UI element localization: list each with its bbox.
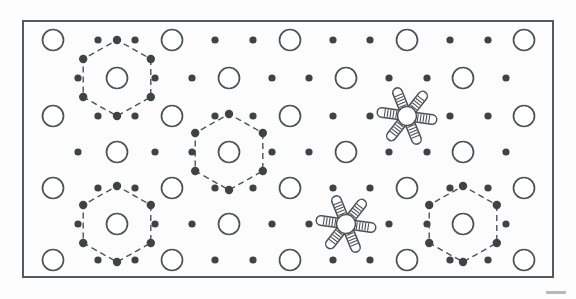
adatom-filled-dot: [268, 74, 275, 81]
substrate-atom-open-circle: [280, 178, 301, 199]
substrate-atom-open-circle: [336, 68, 357, 89]
rotor-lower-mid-arm-3: [316, 215, 339, 227]
adatom-filled-dot: [131, 36, 138, 43]
substrate-atom-open-circle: [162, 250, 183, 271]
adatom-filled-dot: [74, 220, 81, 227]
adatom-filled-dot: [385, 148, 392, 155]
adatom-filled-dot: [211, 256, 218, 263]
adatom-filled-dot: [305, 74, 312, 81]
substrate-atom-open-circle: [514, 178, 535, 199]
adatom-filled-dot: [188, 220, 195, 227]
substrate-atom-open-circle: [453, 142, 474, 163]
adatom-filled-dot: [74, 74, 81, 81]
adatom-filled-dot: [329, 112, 336, 119]
adatom-filled-dot: [305, 148, 312, 155]
lattice-atom-layer: [43, 30, 535, 271]
hexagon-bottom-left-vertex-1: [147, 239, 155, 247]
adatom-filled-dot: [151, 148, 158, 155]
hexagon-top-left-vertex-2: [113, 112, 121, 120]
substrate-atom-open-circle: [219, 214, 240, 235]
substrate-atom-open-circle: [219, 68, 240, 89]
adatom-filled-dot: [423, 148, 430, 155]
adatom-filled-dot: [249, 36, 256, 43]
adatom-filled-dot: [249, 112, 256, 119]
rotor-upper-right-arm-3: [377, 107, 400, 119]
hexagon-bottom-left-vertex-4: [79, 201, 87, 209]
hexagon-center-vertex-5: [225, 110, 233, 118]
adatom-filled-dot: [94, 112, 101, 119]
adatom-filled-dot: [385, 74, 392, 81]
hexagon-top-left-vertex-1: [147, 93, 155, 101]
hexagon-bottom-left-vertex-2: [113, 258, 121, 266]
adatom-filled-dot: [329, 36, 336, 43]
adatom-filled-dot: [484, 256, 491, 263]
substrate-atom-open-circle: [43, 106, 64, 127]
lattice-canvas: [0, 0, 576, 299]
hexagon-top-left-vertex-5: [113, 36, 121, 44]
hexagon-bottom-right-vertex-0: [493, 201, 501, 209]
substrate-atom-open-circle: [514, 250, 535, 271]
adatom-filled-dot: [366, 184, 373, 191]
adatom-filled-dot: [423, 74, 430, 81]
adatom-filled-dot: [151, 220, 158, 227]
adatom-filled-dot: [94, 256, 101, 263]
hexagon-bottom-left-vertex-3: [79, 239, 87, 247]
hexagon-bottom-left-vertex-0: [147, 201, 155, 209]
substrate-atom-open-circle: [280, 250, 301, 271]
adatom-filled-dot: [268, 220, 275, 227]
adatom-filled-dot: [249, 256, 256, 263]
hexagon-bottom-left-vertex-5: [113, 182, 121, 190]
rotor-upper-right: [373, 84, 440, 149]
substrate-atom-open-circle: [397, 178, 418, 199]
substrate-atom-open-circle: [280, 30, 301, 51]
substrate-atom-open-circle: [514, 106, 535, 127]
adatom-filled-dot: [502, 220, 509, 227]
hexagon-top-left-vertex-4: [79, 55, 87, 63]
lattice-row-1: [74, 68, 509, 89]
hexagon-center-vertex-0: [259, 129, 267, 137]
substrate-atom-open-circle: [514, 30, 535, 51]
adatom-filled-dot: [268, 148, 275, 155]
adatom-filled-dot: [366, 256, 373, 263]
adatom-filled-dot: [329, 256, 336, 263]
substrate-atom-open-circle: [219, 142, 240, 163]
hexagon-bottom-right-vertex-1: [493, 239, 501, 247]
substrate-atom-open-circle: [43, 30, 64, 51]
adatom-filled-dot: [131, 256, 138, 263]
rotor-lower-mid-arm-0: [353, 220, 376, 232]
lattice-row-5: [74, 214, 509, 235]
hexagon-center-vertex-1: [259, 167, 267, 175]
adatom-filled-dot: [211, 184, 218, 191]
hexagon-bottom-right-vertex-5: [459, 182, 467, 190]
substrate-atom-open-circle: [162, 106, 183, 127]
adatom-filled-dot: [446, 184, 453, 191]
adatom-filled-dot: [423, 220, 430, 227]
adatom-filled-dot: [446, 256, 453, 263]
adatom-filled-dot: [329, 184, 336, 191]
substrate-atom-open-circle: [453, 214, 474, 235]
adatom-filled-dot: [131, 112, 138, 119]
adatom-filled-dot: [188, 74, 195, 81]
hexagon-bottom-right-vertex-2: [459, 258, 467, 266]
adatom-filled-dot: [305, 220, 312, 227]
adatom-filled-dot: [446, 112, 453, 119]
adatom-filled-dot: [366, 36, 373, 43]
rotor-upper-right-arm-0: [414, 112, 437, 124]
substrate-atom-open-circle: [107, 142, 128, 163]
substrate-atom-open-circle: [107, 214, 128, 235]
substrate-atom-open-circle: [43, 250, 64, 271]
hexagon-bottom-right-vertex-4: [425, 201, 433, 209]
substrate-atom-open-circle: [336, 142, 357, 163]
substrate-atom-open-circle: [453, 68, 474, 89]
substrate-atom-open-circle: [397, 30, 418, 51]
adatom-filled-dot: [131, 184, 138, 191]
adatom-filled-dot: [484, 184, 491, 191]
adatom-filled-dot: [94, 184, 101, 191]
adatom-filled-dot: [211, 36, 218, 43]
adatom-filled-dot: [385, 220, 392, 227]
adatom-filled-dot: [366, 112, 373, 119]
adatom-filled-dot: [502, 148, 509, 155]
hexagon-center-vertex-2: [225, 186, 233, 194]
substrate-atom-open-circle: [43, 178, 64, 199]
substrate-atom-open-circle: [162, 178, 183, 199]
